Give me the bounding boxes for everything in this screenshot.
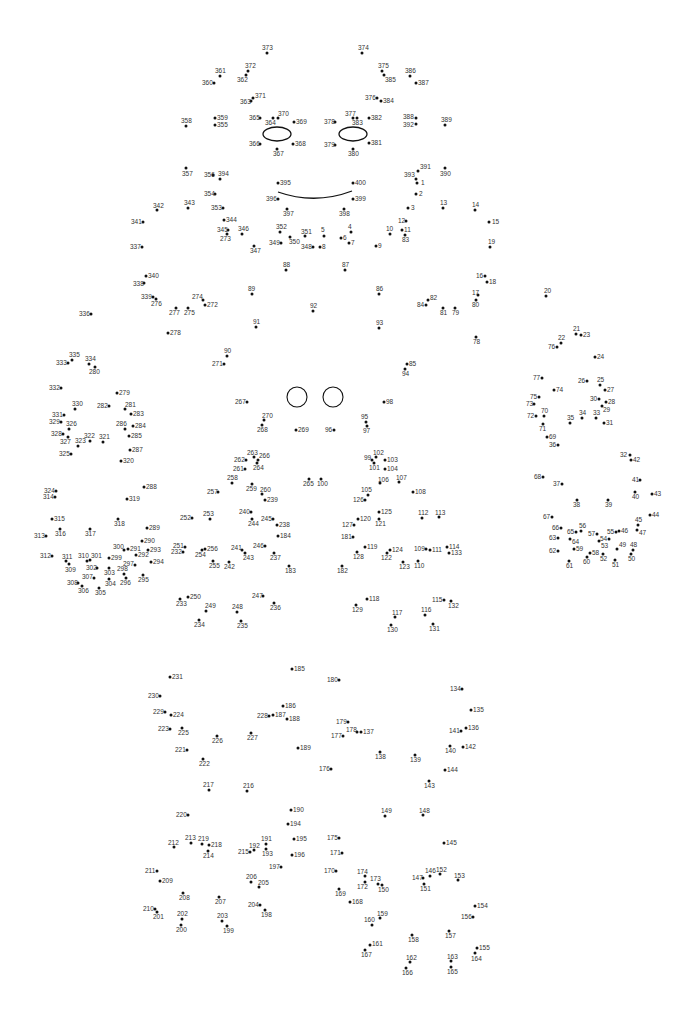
dot-point[interactable]: [557, 550, 560, 553]
dot-point[interactable]: [250, 881, 253, 884]
dot-point[interactable]: [384, 815, 387, 818]
dot-point[interactable]: [312, 310, 315, 313]
dot-point[interactable]: [88, 363, 91, 366]
dot-point[interactable]: [545, 295, 548, 298]
dot-point[interactable]: [266, 52, 269, 55]
dot-point[interactable]: [595, 417, 598, 420]
dot-point[interactable]: [489, 246, 492, 249]
dot-point[interactable]: [381, 70, 384, 73]
dot-point[interactable]: [560, 342, 563, 345]
dot-point[interactable]: [102, 441, 105, 444]
dot-point[interactable]: [575, 333, 578, 336]
dot-point[interactable]: [538, 396, 541, 399]
dot-point[interactable]: [344, 269, 347, 272]
dot-point[interactable]: [629, 454, 632, 457]
dot-point[interactable]: [599, 384, 602, 387]
dot-number-label: 132: [448, 603, 459, 610]
dot-point[interactable]: [425, 304, 428, 307]
dot-point[interactable]: [226, 355, 229, 358]
dot-point[interactable]: [181, 918, 184, 921]
dot-point[interactable]: [586, 380, 589, 383]
dot-point[interactable]: [246, 790, 249, 793]
dot-point[interactable]: [484, 275, 487, 278]
dot-point[interactable]: [378, 293, 381, 296]
dot-point[interactable]: [551, 516, 554, 519]
dot-point[interactable]: [443, 599, 446, 602]
dot-point[interactable]: [378, 327, 381, 330]
dot-point[interactable]: [421, 517, 424, 520]
dot-point[interactable]: [615, 531, 618, 534]
dot-point[interactable]: [415, 193, 418, 196]
dot-point[interactable]: [68, 428, 71, 431]
dot-point[interactable]: [187, 207, 190, 210]
dot-point[interactable]: [205, 610, 208, 613]
dot-point[interactable]: [632, 549, 635, 552]
dot-point[interactable]: [201, 843, 204, 846]
dot-point[interactable]: [285, 269, 288, 272]
dot-number-label: 314: [43, 494, 54, 501]
dot-point[interactable]: [535, 415, 538, 418]
dot-point[interactable]: [541, 377, 544, 380]
dot-point[interactable]: [474, 209, 477, 212]
dot-point[interactable]: [185, 125, 188, 128]
dot-point[interactable]: [429, 875, 432, 878]
dot-number-label: 119: [367, 544, 377, 551]
dot-point[interactable]: [255, 326, 258, 329]
dot-point[interactable]: [361, 52, 364, 55]
dot-point[interactable]: [77, 445, 80, 448]
dot-point[interactable]: [560, 527, 563, 530]
dot-point[interactable]: [190, 842, 193, 845]
dot-point[interactable]: [221, 920, 224, 923]
dot-point[interactable]: [71, 359, 74, 362]
dot-point[interactable]: [596, 533, 599, 536]
dot-point[interactable]: [124, 428, 127, 431]
dot-point[interactable]: [74, 408, 77, 411]
dot-point[interactable]: [247, 70, 250, 73]
dot-point[interactable]: [219, 75, 222, 78]
dot-point[interactable]: [598, 398, 601, 401]
dot-point[interactable]: [377, 883, 380, 886]
dot-point[interactable]: [389, 233, 392, 236]
dot-point[interactable]: [543, 415, 546, 418]
dot-point[interactable]: [208, 789, 211, 792]
dot-point[interactable]: [365, 421, 368, 424]
dot-point[interactable]: [123, 573, 126, 576]
dot-point[interactable]: [580, 530, 583, 533]
dot-point[interactable]: [279, 231, 282, 234]
dot-point[interactable]: [323, 235, 326, 238]
dot-point[interactable]: [89, 440, 92, 443]
dot-point[interactable]: [219, 178, 222, 181]
dot-point[interactable]: [241, 233, 244, 236]
dot-point[interactable]: [561, 483, 564, 486]
dot-point[interactable]: [637, 524, 640, 527]
dot-point[interactable]: [236, 611, 239, 614]
dot-point[interactable]: [156, 870, 159, 873]
dot-point[interactable]: [416, 182, 419, 185]
dot-point[interactable]: [557, 537, 560, 540]
dot-point[interactable]: [569, 422, 572, 425]
dot-point[interactable]: [407, 207, 410, 210]
dot-point[interactable]: [542, 476, 545, 479]
dot-number-label: 388: [403, 114, 414, 121]
dot-point[interactable]: [608, 538, 611, 541]
dot-point[interactable]: [367, 494, 370, 497]
dot-point[interactable]: [557, 444, 560, 447]
dot-point[interactable]: [581, 417, 584, 420]
dot-point[interactable]: [251, 293, 254, 296]
dot-point[interactable]: [231, 482, 234, 485]
dot-point[interactable]: [86, 560, 89, 563]
dot-point[interactable]: [415, 123, 418, 126]
dot-point[interactable]: [333, 429, 336, 432]
dot-point[interactable]: [350, 231, 353, 234]
dot-point[interactable]: [575, 531, 578, 534]
dot-point[interactable]: [371, 924, 374, 927]
dot-point[interactable]: [209, 518, 212, 521]
dot-point[interactable]: [415, 117, 418, 120]
dot-point[interactable]: [556, 346, 559, 349]
dot-point[interactable]: [488, 221, 491, 224]
dot-point[interactable]: [442, 207, 445, 210]
dot-point[interactable]: [265, 843, 268, 846]
dot-point[interactable]: [424, 614, 427, 617]
dot-point[interactable]: [409, 75, 412, 78]
dot-point[interactable]: [444, 124, 447, 127]
